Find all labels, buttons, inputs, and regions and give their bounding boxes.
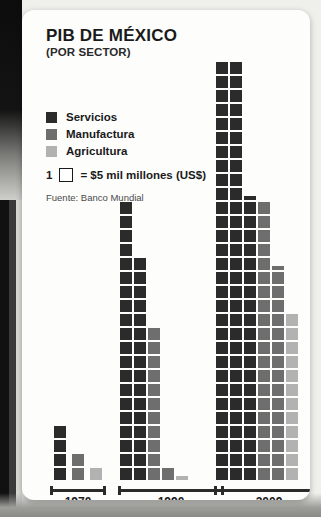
pictogram-square-manufactura bbox=[258, 454, 270, 466]
pictogram-square-servicios bbox=[216, 160, 228, 172]
pictogram-square-servicios bbox=[216, 356, 228, 368]
pictogram-square-servicios bbox=[216, 454, 228, 466]
pictogram-square-manufactura bbox=[272, 370, 284, 382]
pictogram-square-servicios bbox=[134, 426, 146, 438]
pictogram-square-manufactura bbox=[258, 216, 270, 228]
pictogram-square-servicios bbox=[216, 244, 228, 256]
pictogram-square-servicios bbox=[134, 370, 146, 382]
pictogram-square-manufactura bbox=[272, 272, 284, 284]
pictogram-square-manufactura bbox=[72, 468, 84, 480]
pictogram-square-servicios bbox=[216, 258, 228, 270]
pictogram-square-manufactura bbox=[148, 454, 160, 466]
pictogram-square-servicios bbox=[120, 356, 132, 368]
pictogram-square-servicios bbox=[230, 216, 242, 228]
pictogram-square-servicios bbox=[230, 62, 242, 74]
pictogram-square-servicios bbox=[230, 370, 242, 382]
pictogram-square-manufactura bbox=[258, 398, 270, 410]
pictogram-square-agricultura bbox=[286, 342, 298, 354]
pictogram-square-agricultura bbox=[90, 468, 102, 480]
pictogram-square-manufactura bbox=[272, 314, 284, 326]
pictogram-square-servicios bbox=[54, 454, 66, 466]
pictogram-square-servicios bbox=[230, 328, 242, 340]
pictogram-square-manufactura bbox=[258, 258, 270, 270]
pictogram-square-servicios bbox=[120, 202, 132, 214]
pictogram-square-manufactura bbox=[258, 300, 270, 312]
axis-tick-1970-left bbox=[50, 486, 53, 495]
pictogram-square-agricultura bbox=[286, 370, 298, 382]
pictogram-square-servicios bbox=[216, 174, 228, 186]
pictogram-square-servicios bbox=[216, 272, 228, 284]
pictogram-square-agricultura bbox=[286, 384, 298, 396]
pictogram-square-servicios bbox=[230, 272, 242, 284]
pictogram-square-servicios bbox=[230, 468, 242, 480]
pictogram-square-agricultura bbox=[286, 468, 298, 480]
pictogram-square-servicios bbox=[230, 356, 242, 368]
pictogram-partial-square-manufactura bbox=[272, 266, 284, 270]
pictogram-square-servicios bbox=[216, 118, 228, 130]
pictogram-square-servicios bbox=[244, 440, 256, 452]
pictogram-square-servicios bbox=[216, 76, 228, 88]
pictogram-square-servicios bbox=[244, 468, 256, 480]
pictogram-square-servicios bbox=[216, 62, 228, 74]
pictogram-square-servicios bbox=[54, 426, 66, 438]
pictogram-square-manufactura bbox=[148, 356, 160, 368]
pictogram-square-servicios bbox=[120, 286, 132, 298]
pictogram-square-servicios bbox=[134, 356, 146, 368]
year-label-1970: 1970 bbox=[50, 495, 106, 500]
pictogram-square-servicios bbox=[134, 398, 146, 410]
pictogram-square-servicios bbox=[230, 76, 242, 88]
pictogram-square-servicios bbox=[120, 300, 132, 312]
pictogram-square-manufactura bbox=[258, 272, 270, 284]
pictogram-square-servicios bbox=[230, 118, 242, 130]
pictogram-square-servicios bbox=[230, 132, 242, 144]
pictogram-square-agricultura bbox=[286, 440, 298, 452]
pictogram-square-manufactura bbox=[148, 328, 160, 340]
pictogram-square-servicios bbox=[120, 412, 132, 424]
pictogram-square-servicios bbox=[134, 314, 146, 326]
pictogram-square-manufactura bbox=[258, 328, 270, 340]
pictogram-square-servicios bbox=[134, 440, 146, 452]
pictogram-square-manufactura bbox=[258, 244, 270, 256]
pictogram-square-manufactura bbox=[272, 468, 284, 480]
pictogram-square-servicios bbox=[230, 384, 242, 396]
pictogram-square-servicios bbox=[134, 412, 146, 424]
pictogram-square-servicios bbox=[134, 258, 146, 270]
pictogram-square-servicios bbox=[216, 286, 228, 298]
pictogram-square-manufactura bbox=[148, 398, 160, 410]
pictogram-square-manufactura bbox=[272, 426, 284, 438]
pictogram-square-servicios bbox=[244, 384, 256, 396]
pictogram-square-servicios bbox=[230, 160, 242, 172]
pictogram-square-servicios bbox=[216, 440, 228, 452]
pictogram-square-servicios bbox=[134, 286, 146, 298]
infographic-card: PIB DE MÉXICO (POR SECTOR) Servicios Man… bbox=[22, 10, 310, 500]
pictogram-square-servicios bbox=[120, 454, 132, 466]
pictogram-square-agricultura bbox=[286, 412, 298, 424]
pictogram-square-servicios bbox=[216, 188, 228, 200]
pictogram-square-manufactura bbox=[272, 398, 284, 410]
pictogram-square-servicios bbox=[230, 300, 242, 312]
pictogram-square-servicios bbox=[230, 426, 242, 438]
pictogram-square-servicios bbox=[120, 426, 132, 438]
pictogram-square-manufactura bbox=[72, 454, 84, 466]
pictogram-square-servicios bbox=[230, 342, 242, 354]
pictogram-square-servicios bbox=[230, 398, 242, 410]
pictogram-square-servicios bbox=[120, 230, 132, 242]
pictogram-square-servicios bbox=[134, 328, 146, 340]
pictogram-square-manufactura bbox=[272, 454, 284, 466]
pictogram-square-servicios bbox=[216, 90, 228, 102]
pictogram-square-servicios bbox=[244, 356, 256, 368]
pictogram-square-servicios bbox=[244, 342, 256, 354]
pictogram-square-manufactura bbox=[148, 468, 160, 480]
pictogram-square-servicios bbox=[244, 454, 256, 466]
axis-tick-1990-left bbox=[118, 486, 121, 495]
pictogram-square-manufactura bbox=[148, 412, 160, 424]
pictogram-square-manufactura bbox=[272, 286, 284, 298]
pictogram-square-servicios bbox=[216, 384, 228, 396]
pictogram-square-servicios bbox=[244, 426, 256, 438]
pictogram-square-servicios bbox=[216, 314, 228, 326]
pictogram-square-servicios bbox=[230, 104, 242, 116]
pictogram-square-manufactura bbox=[148, 384, 160, 396]
pictogram-square-servicios bbox=[216, 104, 228, 116]
pictogram-chart: 197019902009 bbox=[22, 10, 310, 500]
pictogram-square-servicios bbox=[54, 468, 66, 480]
